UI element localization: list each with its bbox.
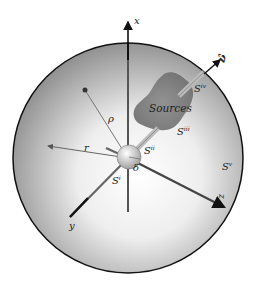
- y-axis-label: y: [68, 220, 75, 231]
- rho-point: [83, 88, 88, 93]
- z-axis-label: z: [217, 193, 227, 199]
- x-axis-label: x: [134, 15, 140, 26]
- delta-label: δ: [133, 162, 139, 173]
- diagram-canvas: x y z ν̂ Sources ρ r δ Si Sii Siii Siv S…: [0, 0, 253, 291]
- normal-vector: [204, 60, 220, 74]
- rho-label: ρ: [107, 113, 114, 124]
- sources-label: Sources: [149, 102, 192, 114]
